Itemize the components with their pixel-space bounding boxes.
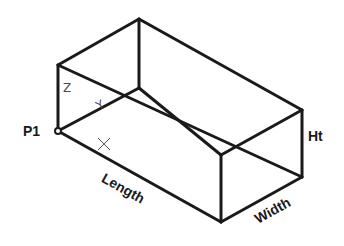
height-label: Ht (308, 128, 323, 144)
box-edges (58, 19, 302, 222)
point-p1-label: P1 (23, 123, 40, 139)
edge-top-back-long (139, 19, 302, 110)
edge-bottom-length (58, 131, 221, 222)
edge-back-bottom-long (139, 88, 221, 155)
edge-top-front-short (221, 110, 302, 155)
p1-point-marker (55, 128, 61, 134)
isometric-box-diagram: Z Y P1 Length Width Ht (0, 0, 344, 246)
x-axis-cross-icon (98, 138, 110, 150)
width-label: Width (252, 194, 294, 227)
edge-top-left-back (58, 19, 139, 65)
axis-z-label: Z (63, 81, 71, 95)
